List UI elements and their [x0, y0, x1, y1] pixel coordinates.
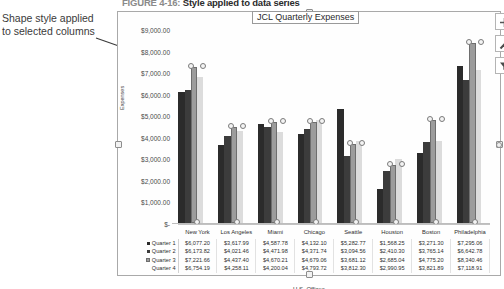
chart-object-frame[interactable]: JCL Quarterly Expenses Expenses $9,000.0…: [117, 11, 501, 276]
data-table-category-header: Boston: [412, 225, 451, 240]
data-table-cell: $7,295.06: [451, 239, 490, 247]
data-table-cell: $4,258.11: [217, 264, 256, 272]
frame-edge-dot[interactable]: [496, 142, 502, 148]
y-axis-tick: $4,000.00: [141, 134, 170, 141]
data-table-cell: $4,775.20: [412, 256, 451, 264]
data-table-category-header: Philadelphia: [451, 225, 490, 240]
data-point-handle[interactable]: [319, 118, 325, 124]
data-point-handle[interactable]: [387, 161, 393, 167]
data-point-handle[interactable]: [478, 39, 484, 45]
data-table-category-header: Los Angeles: [217, 225, 256, 240]
data-table-cell: $4,793.72: [295, 264, 334, 272]
data-table-cell: $3,821.89: [412, 264, 451, 272]
data-table-cell: $3,617.99: [217, 239, 256, 247]
plot-area[interactable]: [172, 30, 490, 224]
y-axis-tick: $1,000.00: [141, 199, 170, 206]
data-table-cell: $6,642.78: [451, 247, 490, 255]
data-table-cell: $4,132.10: [295, 239, 334, 247]
data-point-handle[interactable]: [268, 118, 274, 124]
bar-shadow: [316, 120, 322, 223]
bar-shadow: [356, 141, 362, 223]
bar-shadow: [276, 132, 282, 223]
chart-data-table: New YorkLos AngelesMiamiChicagoSeattleHo…: [128, 224, 490, 273]
bar-3[interactable]: [350, 144, 356, 223]
data-table-cell: $7,221.66: [178, 256, 217, 264]
data-table-series-label: Quarter 3: [128, 256, 178, 264]
bar-group: [291, 30, 331, 223]
data-table-cell: $3,765.14: [412, 247, 451, 255]
legend-key-icon: [147, 250, 150, 253]
data-table-cell: $3,681.12: [334, 256, 373, 264]
y-axis-tick-labels: $9,000.00$8,000.00$7,000.00$6,000.00$5,0…: [124, 30, 170, 224]
data-table-cell: $3,812.30: [334, 264, 373, 272]
data-table-cell: $3,094.56: [334, 247, 373, 255]
figure-caption: FIGURE 4-16: Style applied to data serie…: [122, 0, 382, 9]
data-table-cell: $2,410.30: [373, 247, 412, 255]
bar-3[interactable]: [390, 165, 396, 223]
y-axis-tick: $9,000.00: [141, 27, 170, 34]
legend-key-icon: [147, 267, 150, 270]
data-table-row: Quarter 4$6,754.19$4,258.11$4,200.04$4,7…: [128, 264, 490, 272]
y-axis-tick: $3,000.00: [141, 156, 170, 163]
data-table-category-header: New York: [178, 225, 217, 240]
data-point-handle[interactable]: [359, 140, 365, 146]
y-axis-tick: $8,000.00: [141, 48, 170, 55]
data-table-cell: $5,282.77: [334, 239, 373, 247]
bar-3[interactable]: [310, 122, 316, 223]
bar-shadow: [435, 141, 441, 223]
bar-3[interactable]: [191, 67, 197, 223]
data-table-cell: $4,670.21: [256, 256, 295, 264]
bar-group: [371, 30, 411, 223]
data-table-cell: $4,587.78: [256, 239, 295, 247]
data-table-category-header: Houston: [373, 225, 412, 240]
bar-shadow: [236, 131, 242, 223]
data-point-handle[interactable]: [200, 63, 206, 69]
data-point-handle[interactable]: [399, 161, 405, 167]
bar-group: [331, 30, 371, 223]
data-table-cell: $4,679.06: [295, 256, 334, 264]
legend-key-icon: [147, 242, 150, 245]
data-table-cell: $3,271.30: [412, 239, 451, 247]
y-axis-tick: $5,000.00: [141, 113, 170, 120]
data-table-row: Quarter 1$6,077.20$3,617.99$4,587.78$4,1…: [128, 239, 490, 247]
data-point-handle[interactable]: [439, 116, 445, 122]
legend-key-icon: [146, 258, 150, 262]
bar-3[interactable]: [430, 120, 436, 223]
data-table-category-header: Miami: [256, 225, 295, 240]
data-point-handle[interactable]: [427, 116, 433, 122]
data-table-row: Quarter 3$7,221.66$4,437.40$4,670.21$4,6…: [128, 256, 490, 264]
data-table-category-header: Chicago: [295, 225, 334, 240]
data-point-handle[interactable]: [280, 118, 286, 124]
data-table-series-label: Quarter 4: [128, 264, 178, 272]
figure-caption-text: Style applied to data series: [183, 0, 300, 8]
data-table-cell: $6,077.20: [178, 239, 217, 247]
data-table-row: Quarter 2$6,173.82$4,021.46$4,471.98$4,3…: [128, 247, 490, 255]
figure-number: FIGURE 4-16:: [122, 0, 180, 8]
annotation-line-2: to selected columns: [2, 25, 114, 38]
data-table-cell: $1,568.25: [373, 239, 412, 247]
data-table-cell: $2,990.95: [373, 264, 412, 272]
y-axis-tick: $2,000.00: [141, 177, 170, 184]
data-table-cell: $6,754.19: [178, 264, 217, 272]
bar-group: [212, 30, 252, 223]
bar-3[interactable]: [231, 127, 237, 223]
data-table-cell: $4,021.46: [217, 247, 256, 255]
data-table-category-header: Seattle: [334, 225, 373, 240]
bar-shadow: [197, 77, 203, 223]
data-table-corner: [128, 225, 178, 240]
bar-3[interactable]: [469, 43, 475, 223]
data-table-body: Quarter 1$6,077.20$3,617.99$4,587.78$4,1…: [128, 239, 490, 273]
bar-shadow: [475, 70, 481, 223]
data-table-cell: $6,173.82: [178, 247, 217, 255]
bar-group: [172, 30, 212, 223]
bar-group: [450, 30, 490, 223]
data-table-cell: $8,340.46: [451, 256, 490, 264]
data-table-series-label: Quarter 2: [128, 247, 178, 255]
bar-shadow: [395, 159, 401, 223]
data-point-handle[interactable]: [347, 140, 353, 146]
bar-3[interactable]: [271, 122, 277, 223]
data-table-series-label: Quarter 1: [128, 239, 178, 247]
y-axis-tick: $6,000.00: [141, 91, 170, 98]
annotation-line-1: Shape style applied: [2, 12, 114, 25]
data-point-handle[interactable]: [240, 123, 246, 129]
